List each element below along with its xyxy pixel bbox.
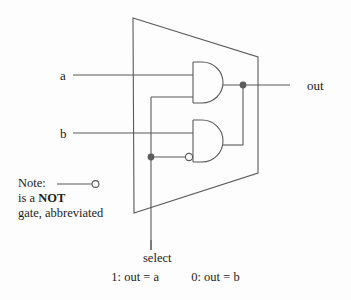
input-label-b: b <box>60 127 67 140</box>
diagram-canvas: a b out select Note: is a NOT gate, abbr… <box>0 0 351 300</box>
note-row-1: Note: <box>18 176 148 191</box>
note-line-2-bold: NOT <box>38 191 65 205</box>
note-line-2: is a NOT <box>18 191 148 206</box>
junction-dot-output <box>240 82 247 89</box>
circuit-schematic <box>0 0 351 300</box>
caption-right: 0: out = b <box>191 270 239 284</box>
control-label-select: select <box>143 252 171 265</box>
caption-left: 1: out = a <box>111 270 159 284</box>
note-word: Note: <box>18 176 46 191</box>
and-top-body <box>193 62 223 103</box>
caption: 1: out = a 0: out = b <box>0 270 351 285</box>
junction-dot-select <box>148 154 155 161</box>
note-line-3: gate, abbreviated <box>18 206 148 221</box>
note-block: Note: is a NOT gate, abbreviated <box>18 176 148 221</box>
input-label-a: a <box>60 69 66 82</box>
not-bubble-icon <box>185 153 192 160</box>
note-line-2-prefix: is a <box>18 191 38 205</box>
mux-body-outline <box>133 18 258 213</box>
output-label-out: out <box>307 79 324 92</box>
and-bottom-body <box>193 120 223 162</box>
